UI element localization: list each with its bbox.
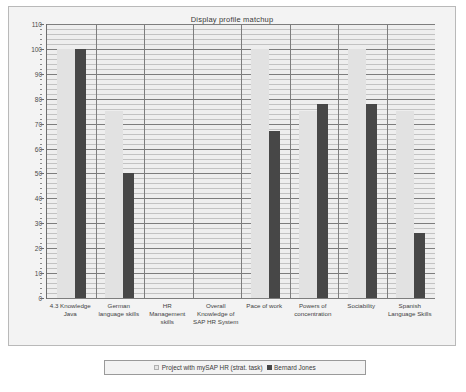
bar-series-bernard-jones (414, 233, 425, 298)
gridline-minor (47, 163, 435, 164)
x-axis-category-line: Management (143, 310, 192, 318)
x-axis-category-label: OverallKnowledge ofSAP HR System (192, 302, 241, 327)
x-axis-category-label: Pace of work (240, 302, 289, 310)
gridline-major (47, 223, 435, 224)
y-tick-minor (40, 139, 42, 140)
y-tick-minor (40, 178, 42, 179)
gridline-minor (47, 233, 435, 234)
gridline-minor (47, 94, 435, 95)
y-tick-minor (40, 228, 42, 229)
y-tick-minor (40, 258, 42, 259)
y-tick-minor (40, 283, 42, 284)
legend-label: Bernard Jones (274, 364, 316, 371)
y-tick-minor (40, 79, 42, 80)
y-tick-minor (40, 29, 42, 30)
y-tick-minor (40, 159, 42, 160)
gridline-major (47, 248, 435, 249)
gridline-minor (47, 109, 435, 110)
gridline-minor (47, 243, 435, 244)
gridline-minor (47, 208, 435, 209)
x-axis-category-label: Powers ofconcentration (289, 302, 338, 318)
y-tick-minor (40, 104, 42, 105)
gridline-minor (47, 178, 435, 179)
y-tick-minor (40, 134, 42, 135)
gridline-minor (47, 258, 435, 259)
x-axis-category-line: Language Skills (386, 310, 435, 318)
gridline-minor (47, 114, 435, 115)
x-axis-category-label: SpanishLanguage Skills (386, 302, 435, 318)
x-axis: 4.3 KnowledgeJavaGermanlanguage skillsHR… (46, 302, 434, 342)
gridline-minor (47, 79, 435, 80)
y-tick-major (40, 74, 44, 75)
gridline-major (47, 49, 435, 50)
gridline-minor (47, 134, 435, 135)
legend-entry: Bernard Jones (267, 364, 316, 371)
bar-series-project (251, 49, 269, 298)
bar-series-bernard-jones (75, 49, 86, 298)
x-axis-category-line: Powers of (289, 302, 338, 310)
category-separator (338, 24, 339, 298)
category-separator (241, 24, 242, 298)
gridline-major (47, 149, 435, 150)
gridline-minor (47, 183, 435, 184)
bar-series-bernard-jones (269, 131, 280, 298)
y-tick-minor (40, 64, 42, 65)
legend-entry: Project with mySAP HR (strat. task) (154, 364, 262, 371)
bar-series-project (396, 111, 414, 298)
y-tick-minor (40, 188, 42, 189)
legend-swatch-icon (154, 365, 159, 370)
gridline-minor (47, 59, 435, 60)
gridline-minor (47, 168, 435, 169)
y-tick-minor (40, 129, 42, 130)
gridline-major (47, 298, 435, 299)
y-tick-minor (40, 34, 42, 35)
x-axis-category-label: HRManagementskills (143, 302, 192, 327)
gridline-minor (47, 213, 435, 214)
x-axis-category-line: concentration (289, 310, 338, 318)
gridline-minor (47, 263, 435, 264)
gridline-minor (47, 188, 435, 189)
bar-series-bernard-jones (317, 104, 328, 298)
gridline-minor (47, 69, 435, 70)
y-tick-minor (40, 288, 42, 289)
y-tick-minor (40, 238, 42, 239)
gridline-major (47, 24, 435, 25)
y-tick-minor (40, 183, 42, 184)
legend-label: Project with mySAP HR (strat. task) (162, 364, 263, 371)
x-axis-category-line: skills (143, 318, 192, 326)
category-separator (290, 24, 291, 298)
y-tick-minor (40, 154, 42, 155)
gridline-major (47, 273, 435, 274)
chart-title: Display profile matchup (9, 15, 455, 24)
gridline-major (47, 99, 435, 100)
y-tick-minor (40, 54, 42, 55)
category-separator (96, 24, 97, 298)
x-axis-category-line: Overall (192, 302, 241, 310)
y-tick-major (40, 99, 44, 100)
gridline-minor (47, 268, 435, 269)
chart-legend: Project with mySAP HR (strat. task)Berna… (104, 360, 366, 375)
gridline-minor (47, 253, 435, 254)
bar-series-bernard-jones (366, 104, 377, 298)
y-tick-minor (40, 84, 42, 85)
gridline-minor (47, 84, 435, 85)
gridline-major (47, 173, 435, 174)
gridline-major (47, 74, 435, 75)
x-axis-category-line: Java (46, 310, 95, 318)
chart-root: Display profile matchup 0102030405060708… (0, 0, 466, 392)
gridline-minor (47, 159, 435, 160)
y-tick-minor (40, 263, 42, 264)
y-tick-major (40, 173, 44, 174)
bar-series-bernard-jones (123, 173, 134, 298)
gridline-minor (47, 54, 435, 55)
bars (47, 24, 435, 298)
y-tick-major (40, 273, 44, 274)
gridline-minor (47, 288, 435, 289)
x-axis-category-line: Spanish (386, 302, 435, 310)
y-tick-major (40, 223, 44, 224)
gridline-minor (47, 89, 435, 90)
x-axis-category-line: Sociability (337, 302, 386, 310)
x-axis-category-line: 4.3 Knowledge (46, 302, 95, 310)
y-tick-minor (40, 109, 42, 110)
gridline-minor (47, 293, 435, 294)
